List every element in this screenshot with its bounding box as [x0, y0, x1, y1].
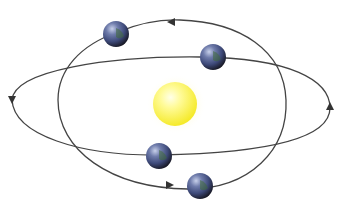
- planet-1: [103, 21, 129, 47]
- planet-4: [187, 173, 213, 199]
- planet-2: [200, 44, 226, 70]
- arrow-right-icon: [326, 102, 334, 110]
- solar-system-diagram: [0, 0, 341, 210]
- sun-body: [153, 82, 197, 126]
- sun: [146, 74, 206, 134]
- arrow-left-icon: [8, 96, 16, 104]
- planet-3: [146, 143, 172, 169]
- arrow-top-icon: [167, 18, 175, 26]
